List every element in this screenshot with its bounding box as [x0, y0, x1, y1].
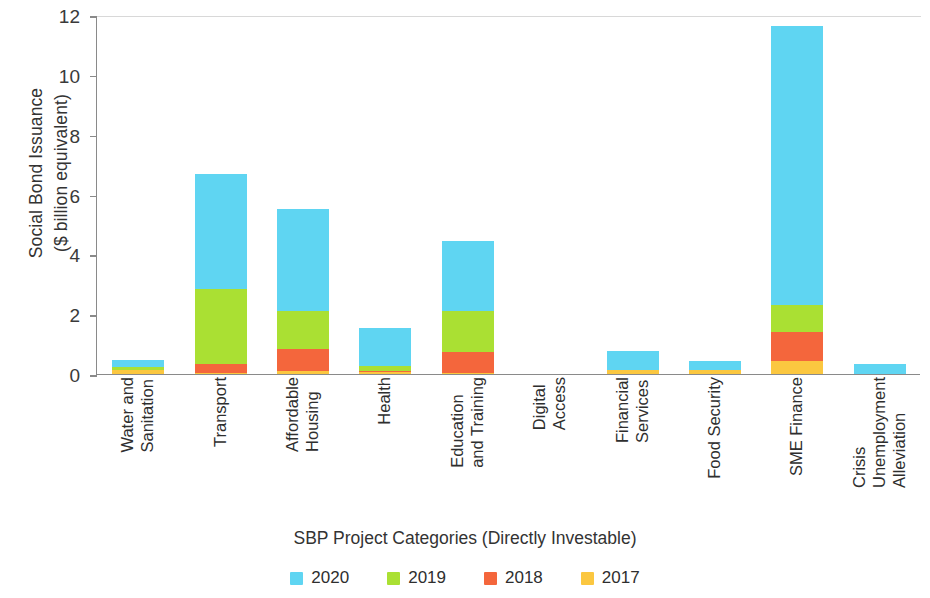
plot-area	[96, 16, 920, 375]
bar-segment-2020[interactable]	[277, 209, 329, 311]
bar-segment-2017[interactable]	[689, 370, 741, 374]
bar-segment-2020[interactable]	[771, 26, 823, 306]
x-tick-label: Crisis Unemployment Alleviation	[849, 377, 909, 488]
y-tick-mark	[90, 16, 97, 18]
bar-segment-2020[interactable]	[607, 351, 659, 370]
bar-segment-2020[interactable]	[442, 241, 494, 311]
bar-segment-2019[interactable]	[442, 311, 494, 352]
y-tick-label: 8	[34, 126, 80, 145]
bar-segment-2018[interactable]	[442, 352, 494, 372]
bar-group[interactable]	[854, 364, 906, 374]
legend-item-2017[interactable]: 2017	[581, 568, 640, 588]
y-tick-mark	[90, 196, 97, 198]
bar-segment-2017[interactable]	[607, 370, 659, 374]
x-tick-label: Financial Services	[612, 377, 652, 443]
legend-item-2019[interactable]: 2019	[387, 568, 446, 588]
y-tick-label: 6	[34, 186, 80, 205]
x-tick-label: Digital Access	[529, 377, 569, 430]
bar-segment-2020[interactable]	[689, 361, 741, 369]
y-tick-label: 12	[34, 7, 80, 26]
y-tick-mark	[90, 255, 97, 257]
bar-group[interactable]	[112, 360, 164, 374]
y-tick-label: 0	[34, 366, 80, 385]
y-tick-mark	[90, 315, 97, 317]
bar-segment-2017[interactable]	[359, 372, 411, 374]
legend-swatch-icon	[581, 572, 594, 585]
legend-swatch-icon	[290, 572, 303, 585]
bar-group[interactable]	[277, 209, 329, 374]
x-tick-label: SME Finance	[786, 377, 806, 476]
x-tick-label: Food Security	[704, 377, 724, 479]
bar-segment-2019[interactable]	[771, 305, 823, 332]
legend-label: 2020	[311, 568, 349, 588]
bar-segment-2019[interactable]	[195, 289, 247, 364]
bar-segment-2017[interactable]	[195, 373, 247, 374]
x-tick-label: Affordable Housing	[282, 377, 322, 452]
bar-group[interactable]	[689, 361, 741, 374]
y-tick-label: 4	[34, 246, 80, 265]
x-axis-tick-labels: Water and SanitationTransportAffordable …	[96, 377, 920, 517]
plot-top-edge	[97, 16, 921, 17]
legend-swatch-icon	[484, 572, 497, 585]
bar-group[interactable]	[359, 328, 411, 374]
x-tick-label: Health	[374, 377, 394, 425]
bar-group[interactable]	[771, 26, 823, 375]
legend-label: 2019	[408, 568, 446, 588]
y-tick-mark	[90, 76, 97, 78]
bar-segment-2018[interactable]	[771, 332, 823, 360]
bar-segment-2019[interactable]	[277, 311, 329, 348]
bar-segment-2017[interactable]	[442, 373, 494, 374]
y-tick-mark	[90, 136, 97, 138]
y-axis-tick-labels: 024681012	[34, 0, 80, 598]
bar-segment-2017[interactable]	[771, 361, 823, 374]
x-axis-title: SBP Project Categories (Directly Investa…	[0, 528, 930, 549]
bar-segment-2017[interactable]	[112, 370, 164, 374]
legend-item-2018[interactable]: 2018	[484, 568, 543, 588]
bar-segment-2018[interactable]	[195, 364, 247, 374]
bar-segment-2020[interactable]	[854, 364, 906, 374]
legend-label: 2018	[505, 568, 543, 588]
bar-segment-2017[interactable]	[277, 371, 329, 374]
bar-group[interactable]	[442, 241, 494, 374]
legend-item-2020[interactable]: 2020	[290, 568, 349, 588]
chart-legend: 2020201920182017	[0, 568, 930, 588]
y-tick-label: 2	[34, 306, 80, 325]
legend-label: 2017	[602, 568, 640, 588]
bar-segment-2020[interactable]	[112, 360, 164, 368]
x-tick-label: Transport	[210, 377, 230, 447]
bar-group[interactable]	[195, 174, 247, 374]
x-tick-label: Education and Training	[447, 377, 487, 468]
y-tick-label: 10	[34, 66, 80, 85]
bar-segment-2020[interactable]	[195, 174, 247, 289]
social-bond-issuance-chart: Social Bond Issuance ($ billion equivale…	[0, 0, 930, 598]
x-tick-label: Water and Sanitation	[117, 377, 157, 453]
legend-swatch-icon	[387, 572, 400, 585]
bar-segment-2018[interactable]	[277, 349, 329, 371]
bar-group[interactable]	[607, 351, 659, 374]
bar-segment-2020[interactable]	[359, 328, 411, 366]
